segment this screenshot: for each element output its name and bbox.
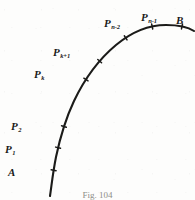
point-label-pk-plus-1-sub: k+1 — [60, 52, 70, 59]
point-tick-p2 — [62, 126, 67, 128]
point-label-pk-plus-1: Pk+1 — [53, 43, 70, 60]
point-label-pn-minus-2-base: P — [104, 17, 111, 29]
figure-container: A B P1 P2 Pk Pk+1 Pn-2 Pn-1 Fig. 104 — [0, 0, 195, 200]
point-label-A-base: A — [8, 166, 15, 178]
point-label-pk-base: P — [34, 68, 41, 80]
curve-path-AB — [50, 25, 194, 196]
point-tick-p1 — [56, 147, 61, 148]
point-label-pn-minus-1-sub: n-1 — [148, 17, 157, 24]
point-label-p2-base: P — [11, 120, 18, 132]
point-label-B-base: B — [176, 14, 183, 26]
point-label-pn-minus-2: Pn-2 — [104, 14, 120, 31]
point-label-p2-sub: 2 — [18, 126, 21, 133]
point-label-p1: P1 — [5, 140, 15, 157]
point-label-pn-minus-1-base: P — [141, 11, 148, 23]
point-label-B: B — [176, 11, 184, 28]
point-label-pk-plus-1-base: P — [53, 46, 60, 58]
point-label-p2: P2 — [11, 117, 21, 134]
point-tick-a — [51, 170, 56, 171]
point-label-pk-sub: k — [41, 74, 44, 81]
point-label-p1-base: P — [5, 143, 12, 155]
curve-diagram — [0, 0, 195, 200]
point-label-A: A — [8, 163, 16, 180]
curve-group — [50, 25, 194, 196]
point-label-pn-minus-1: Pn-1 — [141, 8, 157, 25]
point-ticks-group — [51, 24, 182, 171]
point-label-pk: Pk — [34, 65, 44, 82]
figure-caption: Fig. 104 — [0, 190, 195, 200]
point-label-p1-sub: 1 — [12, 149, 15, 156]
point-label-pn-minus-2-sub: n-2 — [111, 23, 120, 30]
point-tick-pn-1 — [152, 24, 153, 29]
